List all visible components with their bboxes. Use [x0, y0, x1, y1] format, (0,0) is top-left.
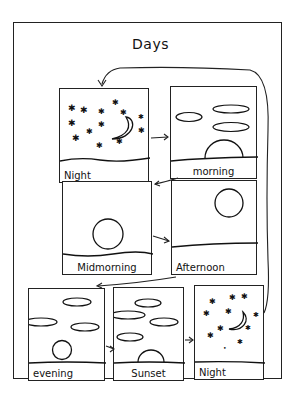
- panel-label: Night: [64, 170, 91, 181]
- svg-text:✱: ✱: [72, 133, 80, 143]
- diagram-title: Days: [0, 36, 301, 52]
- svg-text:✱: ✱: [225, 307, 232, 316]
- panel-night-2: ✱✱ ✱✱ ✱✱ ✱✱ ✱✱ • Night: [194, 285, 264, 380]
- svg-text:✱: ✱: [86, 127, 93, 136]
- panel-midmorning: Midmorning: [62, 181, 152, 275]
- panel-sunset: Sunset: [113, 287, 184, 381]
- svg-text:✱: ✱: [241, 292, 248, 301]
- svg-text:✱: ✱: [120, 108, 127, 117]
- svg-text:✱: ✱: [229, 293, 236, 302]
- panel-afternoon: Afternoon: [171, 180, 257, 275]
- panel-label: Sunset: [114, 368, 183, 379]
- svg-text:✱: ✱: [98, 107, 105, 116]
- svg-text:✱: ✱: [217, 324, 224, 333]
- svg-text:✱: ✱: [80, 105, 88, 115]
- svg-text:✱: ✱: [203, 309, 210, 318]
- panel-label: Midmorning: [63, 262, 151, 273]
- svg-text:✱: ✱: [209, 297, 216, 306]
- svg-text:•: •: [223, 344, 227, 351]
- svg-text:✱: ✱: [68, 103, 76, 113]
- panel-label: Night: [199, 367, 226, 378]
- svg-text:✱: ✱: [112, 98, 119, 107]
- svg-text:✱: ✱: [245, 324, 251, 332]
- panel-evening: evening: [28, 288, 105, 381]
- svg-text:✱: ✱: [253, 311, 259, 319]
- panel-morning: morning: [170, 86, 257, 179]
- svg-text:✱: ✱: [138, 126, 145, 135]
- svg-text:✱: ✱: [138, 113, 144, 121]
- svg-text:✱: ✱: [96, 141, 103, 150]
- panel-label: morning: [171, 166, 256, 177]
- panel-night-1: ✱✱ ✱✱ ✱✱ ✱✱ ✱✱ ✱✱ ✱ Night: [59, 88, 149, 183]
- svg-text:✱: ✱: [207, 331, 214, 340]
- moon-icon: [112, 117, 133, 139]
- svg-text:✱: ✱: [68, 118, 76, 128]
- svg-text:✱: ✱: [98, 120, 105, 129]
- panel-label: Afternoon: [176, 262, 225, 273]
- panel-label: evening: [33, 368, 73, 379]
- svg-text:✱: ✱: [237, 338, 243, 346]
